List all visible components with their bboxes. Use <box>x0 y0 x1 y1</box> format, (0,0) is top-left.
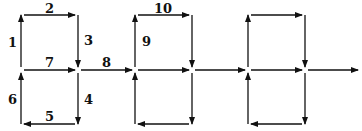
edge-label-2: 2 <box>45 1 54 16</box>
edge-label-5: 5 <box>45 109 54 124</box>
edge-label-3: 3 <box>84 33 93 48</box>
edge-label-10: 10 <box>154 1 172 16</box>
edge-label-9: 9 <box>142 34 151 49</box>
edge-label-7: 7 <box>45 55 54 70</box>
edge-label-4: 4 <box>84 92 93 107</box>
graph-diagram: 12345678910 <box>0 0 362 131</box>
edge-label-6: 6 <box>8 92 17 107</box>
edge-label-1: 1 <box>8 35 17 50</box>
edge-label-8: 8 <box>102 55 111 70</box>
